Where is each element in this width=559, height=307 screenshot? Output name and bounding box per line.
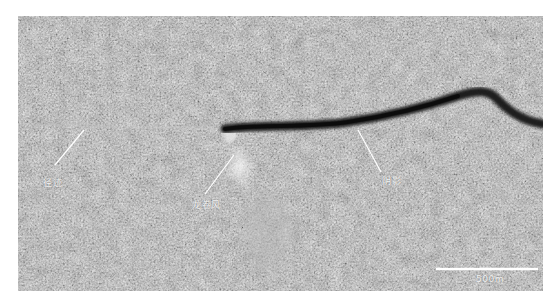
dust-plume [226,144,254,188]
satellite-image [18,16,543,291]
shadow-label: 阴影 [382,174,401,187]
dust-devil-label: 龙卷风 [192,198,221,211]
track-label: 径迹 [43,176,62,189]
scale-bar-label: 500m [476,274,504,284]
terrain-texture [18,16,543,291]
